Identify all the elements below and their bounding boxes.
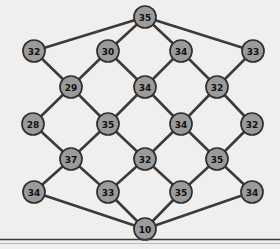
node-label: 37 xyxy=(65,155,78,165)
graph-node[interactable]: 34 xyxy=(134,76,156,98)
graph-node[interactable]: 35 xyxy=(170,181,192,203)
node-label: 32 xyxy=(246,120,259,130)
graph-node[interactable]: 37 xyxy=(60,148,82,170)
node-label: 35 xyxy=(102,120,115,130)
graph-node[interactable]: 33 xyxy=(97,181,119,203)
node-label: 35 xyxy=(211,155,224,165)
node-label: 29 xyxy=(65,83,78,93)
node-label: 34 xyxy=(139,83,152,93)
diagram-canvas: 3532303433293432283534323732353433353410 xyxy=(0,0,280,249)
graph-node[interactable]: 35 xyxy=(206,148,228,170)
graph-node[interactable]: 10 xyxy=(134,218,156,240)
graph-node[interactable]: 32 xyxy=(206,76,228,98)
graph-svg: 3532303433293432283534323732353433353410 xyxy=(0,0,280,249)
node-label: 32 xyxy=(28,47,41,57)
graph-node[interactable]: 35 xyxy=(97,113,119,135)
node-label: 28 xyxy=(27,120,40,130)
graph-node[interactable]: 29 xyxy=(60,76,82,98)
node-label: 34 xyxy=(28,188,41,198)
node-label: 30 xyxy=(102,47,115,57)
graph-node[interactable]: 32 xyxy=(134,148,156,170)
graph-node[interactable]: 32 xyxy=(241,113,263,135)
node-label: 34 xyxy=(175,47,188,57)
node-label: 34 xyxy=(246,188,259,198)
graph-node[interactable]: 28 xyxy=(22,113,44,135)
node-label: 35 xyxy=(139,13,152,23)
graph-node[interactable]: 34 xyxy=(23,181,45,203)
node-label: 34 xyxy=(175,120,188,130)
node-label: 35 xyxy=(175,188,188,198)
node-label: 32 xyxy=(139,155,152,165)
node-label: 33 xyxy=(102,188,115,198)
node-label: 32 xyxy=(211,83,224,93)
graph-node[interactable]: 30 xyxy=(97,40,119,62)
graph-node[interactable]: 34 xyxy=(170,40,192,62)
graph-node[interactable]: 34 xyxy=(241,181,263,203)
node-label: 10 xyxy=(139,225,152,235)
graph-node[interactable]: 34 xyxy=(170,113,192,135)
graph-node[interactable]: 32 xyxy=(23,40,45,62)
graph-node[interactable]: 33 xyxy=(242,40,264,62)
graph-node[interactable]: 35 xyxy=(134,6,156,28)
node-label: 33 xyxy=(247,47,260,57)
